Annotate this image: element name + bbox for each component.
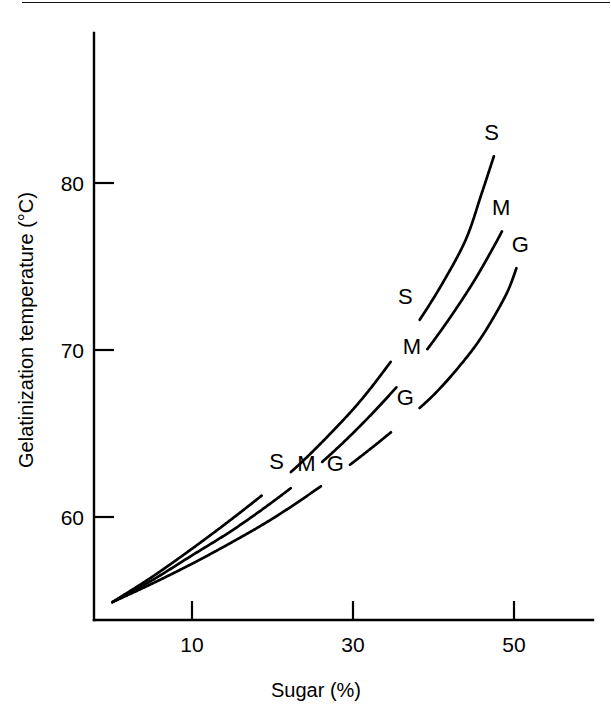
curve-label-m-1: M — [297, 451, 315, 476]
x-axis-title: Sugar (%) — [271, 679, 361, 701]
series-G-segment-middle — [350, 432, 391, 465]
x-tick-label-10: 10 — [180, 633, 203, 656]
y-axis-title: Gelatinization temperature (°C) — [15, 192, 37, 468]
x-axis-ticks — [192, 601, 514, 620]
series-S-segment-lower — [112, 496, 261, 603]
y-tick-label-60: 60 — [61, 506, 84, 529]
y-axis-ticks — [94, 183, 114, 517]
curve-label-g-8: G — [512, 232, 529, 257]
curve-label-m-7: M — [492, 195, 510, 220]
curve-label-layer: SMGSMGSMG — [269, 120, 529, 476]
y-tick-label-80: 80 — [61, 172, 84, 195]
curve-label-g-5: G — [397, 385, 414, 410]
gelatinization-temperature-chart: 80 70 60 10 30 50 SMGSMGSMG Sugar (%) Ge… — [0, 0, 611, 723]
curve-label-g-2: G — [327, 451, 344, 476]
figure-container: 80 70 60 10 30 50 SMGSMGSMG Sugar (%) Ge… — [0, 0, 611, 723]
y-tick-label-70: 70 — [61, 339, 84, 362]
x-tick-label-30: 30 — [341, 633, 364, 656]
series-S-segment-upper — [420, 156, 494, 320]
series-S-curve — [112, 156, 494, 602]
curve-label-s-0: S — [269, 449, 284, 474]
curve-label-m-4: M — [403, 334, 421, 359]
curve-label-s-6: S — [484, 120, 499, 145]
series-G-curve — [112, 268, 516, 602]
x-tick-label-50: 50 — [502, 633, 525, 656]
curve-label-s-3: S — [398, 284, 413, 309]
series-M-curve — [112, 231, 502, 602]
